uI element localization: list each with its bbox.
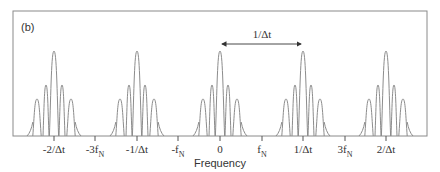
x-tick-label: 3fN <box>338 143 353 159</box>
x-tick-label: fN <box>257 143 267 159</box>
spectral-peak <box>110 51 164 136</box>
spectral-peak <box>193 51 247 136</box>
spectral-peak <box>27 51 81 136</box>
x-tick-label: -1/Δt <box>126 143 148 155</box>
x-tick-label: -2/Δt <box>43 143 65 155</box>
spectrum-figure: (b) 1/Δt -2/Δt-3fN-1/Δt-fN0fN1/Δt3fN2/Δt… <box>0 0 440 172</box>
spectral-peak <box>276 51 330 136</box>
x-tick-label: 0 <box>217 143 223 155</box>
x-tick-label: -fN <box>171 143 184 159</box>
x-tick-label: 1/Δt <box>294 143 313 155</box>
panel-label: (b) <box>21 21 34 33</box>
spectral-peaks <box>27 51 413 136</box>
x-tick-label: 2/Δt <box>377 143 396 155</box>
spacing-label: 1/Δt <box>253 28 272 40</box>
x-tick-label: -3fN <box>86 143 105 159</box>
plot-frame <box>13 11 427 136</box>
spacing-annotation: 1/Δt <box>222 28 301 44</box>
spectral-peak <box>359 51 413 136</box>
x-axis-label: Frequency <box>194 157 246 169</box>
x-axis-ticks: -2/Δt-3fN-1/Δt-fN0fN1/Δt3fN2/Δt <box>43 136 396 159</box>
